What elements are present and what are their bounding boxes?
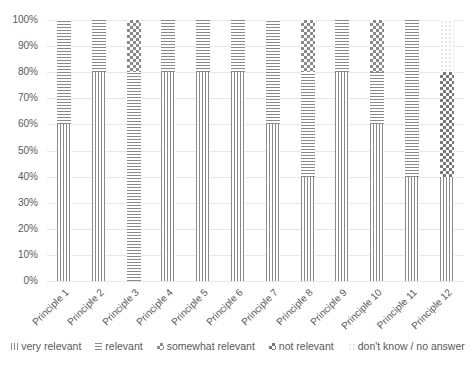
gridline <box>47 255 464 256</box>
segment-very-relevant <box>335 72 349 281</box>
vertical-lines-swatch-icon <box>11 343 18 350</box>
segment-relevant <box>161 20 175 72</box>
horizontal-lines-swatch-icon <box>95 343 102 350</box>
segment-very-relevant <box>92 72 106 281</box>
segment-relevant <box>127 72 141 281</box>
dense-checker-swatch-icon <box>269 343 276 350</box>
y-tick-label: 40% <box>0 171 38 182</box>
segment-very-relevant <box>405 177 419 281</box>
legend-label: not relevant <box>279 340 334 352</box>
segment-very-relevant <box>440 177 454 281</box>
legend-label: don't know / no answer <box>358 340 465 352</box>
bar-principle-7 <box>266 20 280 281</box>
gridline <box>47 124 464 125</box>
gridline <box>47 203 464 204</box>
legend-item-dont-know: don't know / no answer <box>348 340 465 352</box>
legend-item-very-relevant: very relevant <box>11 340 81 352</box>
segment-very-relevant <box>231 72 245 281</box>
legend-item-not-relevant: not relevant <box>269 340 334 352</box>
y-tick-label: 10% <box>0 249 38 260</box>
y-tick-label: 30% <box>0 197 38 208</box>
bar-principle-10 <box>370 20 384 281</box>
bar-principle-2 <box>92 20 106 281</box>
gridline <box>47 46 464 47</box>
segment-very-relevant <box>57 124 71 281</box>
legend-label: very relevant <box>21 340 81 352</box>
gridline <box>47 151 464 152</box>
bar-principle-8 <box>301 20 315 281</box>
bar-principle-12 <box>440 20 454 281</box>
gridline <box>47 281 464 282</box>
segment-very-relevant <box>161 72 175 281</box>
segment-relevant <box>231 20 245 72</box>
bar-principle-11 <box>405 20 419 281</box>
y-tick-label: 100% <box>0 14 38 25</box>
bar-principle-9 <box>335 20 349 281</box>
bar-principle-5 <box>196 20 210 281</box>
y-tick-label: 50% <box>0 145 38 156</box>
dots-swatch-icon <box>348 343 355 350</box>
y-tick-label: 90% <box>0 40 38 51</box>
y-tick-label: 80% <box>0 66 38 77</box>
bar-principle-1 <box>57 20 71 281</box>
bar-principle-4 <box>161 20 175 281</box>
segment-relevant <box>57 20 71 124</box>
y-tick-label: 0% <box>0 275 38 286</box>
gridline <box>47 72 464 73</box>
gridline <box>47 98 464 99</box>
legend-label: relevant <box>105 340 142 352</box>
legend-label: somewhat relevant <box>167 340 255 352</box>
segment-relevant <box>92 20 106 72</box>
segment-very-relevant <box>196 72 210 281</box>
checker-swatch-icon <box>157 343 164 350</box>
legend-item-somewhat-relevant: somewhat relevant <box>157 340 255 352</box>
segment-relevant <box>370 72 384 124</box>
segment-relevant <box>405 20 419 177</box>
segment-somewhat-relevant <box>370 20 384 72</box>
segment-don-t-know-no-answer <box>440 20 454 72</box>
segment-somewhat-relevant <box>301 20 315 72</box>
legend: very relevant relevant somewhat relevant… <box>0 340 476 352</box>
segment-very-relevant <box>370 124 384 281</box>
y-tick-label: 60% <box>0 118 38 129</box>
gridline <box>47 20 464 21</box>
legend-item-relevant: relevant <box>95 340 142 352</box>
bar-principle-3 <box>127 20 141 281</box>
segment-relevant <box>301 72 315 176</box>
gridline <box>47 177 464 178</box>
segment-somewhat-relevant <box>127 20 141 72</box>
segment-relevant <box>335 20 349 72</box>
bar-principle-6 <box>231 20 245 281</box>
segment-not-relevant <box>440 72 454 176</box>
segment-very-relevant <box>301 177 315 281</box>
y-tick-label: 70% <box>0 92 38 103</box>
segment-very-relevant <box>266 124 280 281</box>
gridline <box>47 229 464 230</box>
y-tick-label: 20% <box>0 223 38 234</box>
stacked-percent-bar-chart: 0%10%20%30%40%50%60%70%80%90%100%Princip… <box>0 0 476 365</box>
segment-relevant <box>266 20 280 124</box>
segment-relevant <box>196 20 210 72</box>
